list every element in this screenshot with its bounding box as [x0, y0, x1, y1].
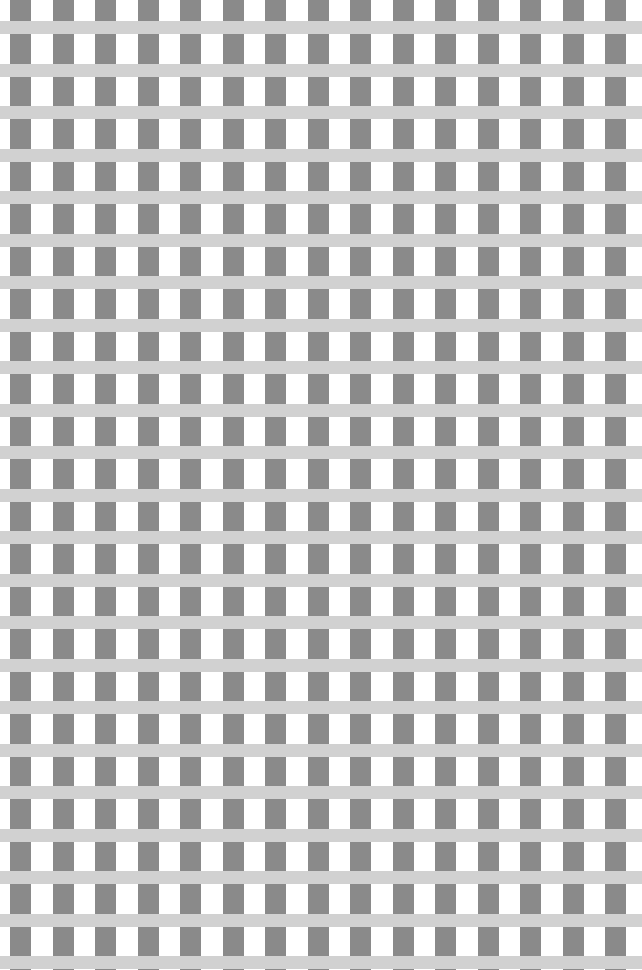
light-band-3 — [0, 149, 642, 162]
light-band-20 — [0, 871, 642, 884]
light-band-13 — [0, 574, 642, 587]
light-band-6 — [0, 276, 642, 289]
light-band-19 — [0, 829, 642, 842]
light-band-21 — [0, 914, 642, 927]
light-band-16 — [0, 701, 642, 714]
light-band-5 — [0, 234, 642, 247]
light-band-2 — [0, 106, 642, 119]
light-band-11 — [0, 489, 642, 502]
light-band-17 — [0, 744, 642, 757]
light-band-15 — [0, 659, 642, 672]
light-band-1 — [0, 64, 642, 77]
light-band-10 — [0, 446, 642, 459]
pattern-canvas — [0, 0, 642, 970]
light-band-4 — [0, 191, 642, 204]
light-band-14 — [0, 616, 642, 629]
light-band-0 — [0, 21, 642, 34]
light-band-8 — [0, 361, 642, 374]
light-band-22 — [0, 956, 642, 969]
light-band-7 — [0, 319, 642, 332]
light-band-layer — [0, 0, 642, 970]
light-band-9 — [0, 404, 642, 417]
light-band-18 — [0, 786, 642, 799]
light-band-12 — [0, 531, 642, 544]
